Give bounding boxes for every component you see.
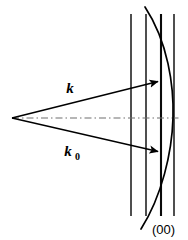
- k0-vector-label: k: [64, 143, 72, 159]
- ewald-sphere-figure: k k 0 (00): [0, 0, 188, 240]
- k-vector-label: k: [66, 80, 74, 96]
- specular-rod-label: (00): [152, 222, 175, 237]
- k0-vector-subscript: 0: [75, 151, 80, 162]
- ewald-diagram-canvas: k k 0 (00): [0, 0, 188, 240]
